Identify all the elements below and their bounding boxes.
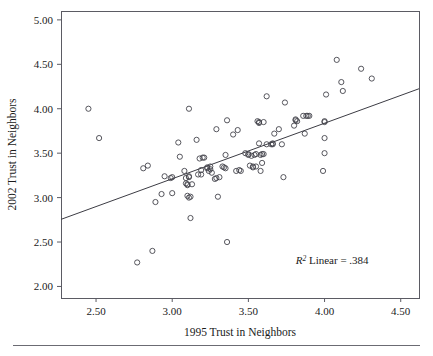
- figure-bottom-rule: [13, 345, 420, 346]
- data-point: [259, 160, 264, 165]
- data-point: [214, 127, 219, 132]
- regression-line: [61, 89, 419, 220]
- data-point: [359, 66, 364, 71]
- data-point: [176, 140, 181, 145]
- y-tick-label: 4.50: [34, 58, 54, 70]
- data-point: [150, 248, 155, 253]
- data-point: [194, 137, 199, 142]
- data-point: [224, 239, 229, 244]
- x-tick-label: 3.50: [239, 305, 259, 317]
- data-point: [235, 127, 240, 132]
- data-point: [170, 191, 175, 196]
- data-point: [302, 131, 307, 136]
- data-point: [182, 168, 187, 173]
- data-point: [281, 175, 286, 180]
- data-point: [264, 94, 269, 99]
- data-point: [215, 194, 220, 199]
- x-axis-title: 1995 Trust in Neighbors: [184, 326, 297, 339]
- data-point: [177, 154, 182, 159]
- y-tick-label: 3.00: [34, 192, 54, 204]
- data-point: [276, 127, 281, 132]
- x-tick-label: 3.00: [163, 305, 183, 317]
- data-point: [162, 174, 167, 179]
- data-point: [186, 106, 191, 111]
- y-tick-label: 2.50: [34, 236, 54, 248]
- data-point: [272, 131, 277, 136]
- data-point: [224, 118, 229, 123]
- y-axis-title: 2002 Trust in Neighbors: [6, 98, 19, 211]
- x-tick-label: 4.50: [391, 305, 411, 317]
- data-point: [214, 175, 219, 180]
- y-tick-label: 3.50: [34, 147, 54, 159]
- data-point: [188, 194, 193, 199]
- data-point: [145, 163, 150, 168]
- r-squared-annotation: R2 Linear = .384: [295, 254, 369, 266]
- data-point: [339, 79, 344, 84]
- data-point: [223, 152, 228, 157]
- data-point: [369, 76, 374, 81]
- data-point: [96, 135, 101, 140]
- data-point: [282, 100, 287, 105]
- data-point: [159, 191, 164, 196]
- data-point: [231, 132, 236, 137]
- y-tick-label: 4.00: [34, 103, 54, 115]
- data-point: [320, 168, 325, 173]
- scatter-plot: 2.503.003.504.004.502.002.503.003.504.00…: [0, 0, 433, 356]
- data-point: [322, 151, 327, 156]
- figure-container: 2.503.003.504.004.502.002.503.003.504.00…: [0, 0, 433, 356]
- data-point: [279, 142, 284, 147]
- y-tick-label: 5.00: [34, 14, 54, 26]
- x-tick-label: 2.50: [86, 305, 106, 317]
- data-point: [153, 199, 158, 204]
- data-point: [188, 215, 193, 220]
- data-point: [86, 106, 91, 111]
- data-point: [334, 57, 339, 62]
- y-tick-label: 2.00: [34, 280, 54, 292]
- data-point: [322, 135, 327, 140]
- data-point: [340, 88, 345, 93]
- data-point: [135, 260, 140, 265]
- data-point: [256, 141, 261, 146]
- data-point: [323, 92, 328, 97]
- data-point: [258, 168, 263, 173]
- x-tick-label: 4.00: [315, 305, 335, 317]
